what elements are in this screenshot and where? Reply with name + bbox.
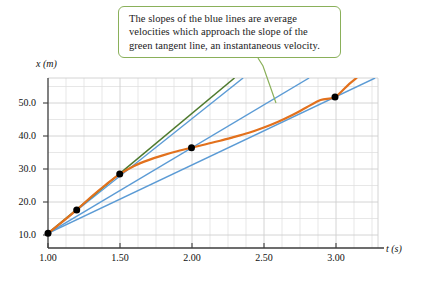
x-tick-label-2-00: 2.00 <box>170 252 214 263</box>
grid-lines <box>48 78 378 248</box>
x-tick-label-1-00: 1.00 <box>26 252 70 263</box>
callout-line-2: velocities which approach the slope of t… <box>129 25 332 38</box>
x-tick-label-2-50: 2.50 <box>242 252 286 263</box>
position-curve-group <box>48 78 357 233</box>
point-t1.20 <box>73 206 80 213</box>
annotation-callout: The slopes of the blue lines are average… <box>118 6 341 58</box>
y-axis-label: x (m) <box>36 58 57 69</box>
y-tick-label-30: 30.0 <box>4 163 36 174</box>
x-axis-label: t (s) <box>386 243 402 254</box>
y-tick-marks <box>43 103 48 235</box>
callout-line-1: The slopes of the blue lines are average <box>129 12 332 25</box>
secant-line-t2 <box>48 78 309 233</box>
point-t1.50 <box>116 171 123 178</box>
secant-lines-group <box>48 78 375 233</box>
position-time-graph-figure: The slopes of the blue lines are average… <box>0 0 428 283</box>
point-t3.00 <box>332 94 339 101</box>
position-curve <box>48 78 357 233</box>
axes <box>48 78 384 248</box>
x-tick-marks <box>48 243 336 248</box>
y-tick-label-50: 50.0 <box>4 97 36 108</box>
y-tick-label-40: 40.0 <box>4 130 36 141</box>
y-tick-label-10: 10.0 <box>4 229 36 240</box>
point-t1.00 <box>45 230 52 237</box>
point-t2.00 <box>188 144 195 151</box>
y-tick-label-20: 20.0 <box>4 196 36 207</box>
grid-lines-major <box>48 78 378 248</box>
x-tick-label-3-00: 3.00 <box>314 252 358 263</box>
callout-line-3: green tangent line, an instantaneous vel… <box>129 39 332 52</box>
secant-line-t3 <box>48 78 375 233</box>
x-tick-label-1-50: 1.50 <box>98 252 142 263</box>
callout-leader-line <box>258 58 276 103</box>
